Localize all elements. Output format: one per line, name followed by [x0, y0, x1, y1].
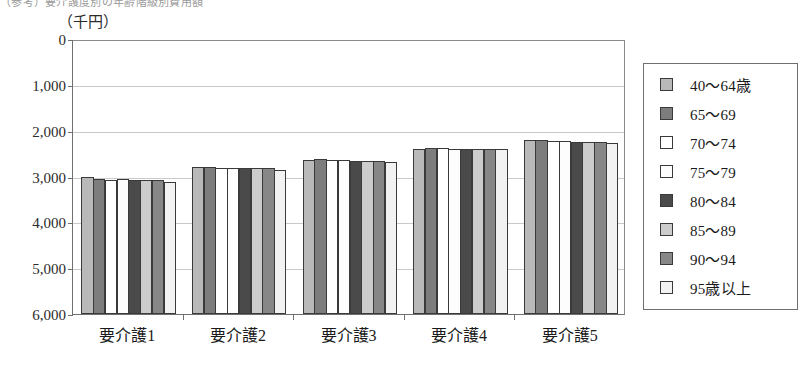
- bar: [338, 160, 350, 314]
- bar: [93, 179, 105, 314]
- bar: [484, 149, 496, 314]
- legend-item[interactable]: 70〜74: [644, 128, 797, 157]
- legend-item[interactable]: 40〜64歳: [644, 70, 797, 99]
- y-axis-tick-mark: [68, 178, 73, 179]
- legend-swatch-icon: [660, 194, 673, 207]
- y-axis-tick-mark: [68, 223, 73, 224]
- chart-legend: 40〜64歳65〜6970〜7475〜7980〜8485〜8990〜9495歳以…: [643, 63, 798, 310]
- legend-item-label: 80〜84: [690, 190, 736, 211]
- y-axis-tick-label: 6,000: [32, 307, 66, 324]
- y-axis-tick-mark: [68, 315, 73, 316]
- legend-item[interactable]: 65〜69: [644, 99, 797, 128]
- legend-item[interactable]: 75〜79: [644, 157, 797, 186]
- bar: [314, 159, 326, 314]
- plot-area: [72, 40, 625, 315]
- bar: [495, 149, 507, 314]
- legend-item[interactable]: 80〜84: [644, 186, 797, 215]
- legend-swatch-icon: [660, 223, 673, 236]
- legend-swatch-icon: [660, 281, 673, 294]
- bar-group: [81, 41, 175, 314]
- bar: [437, 148, 449, 314]
- legend-item-label: 70〜74: [690, 132, 736, 153]
- bar: [559, 141, 571, 314]
- legend-swatch-icon: [660, 165, 673, 178]
- bar: [582, 142, 594, 314]
- y-axis-tick-label: 0: [59, 32, 67, 49]
- legend-item-label: 65〜69: [690, 103, 736, 124]
- bar: [472, 149, 484, 314]
- x-axis-tick-label: 要介護3: [321, 322, 377, 346]
- bar: [117, 179, 129, 314]
- bar: [274, 170, 286, 314]
- x-axis-tick-mark: [514, 315, 515, 320]
- bar: [140, 180, 152, 314]
- bar: [262, 168, 274, 314]
- bar: [192, 167, 204, 314]
- bar: [413, 149, 425, 314]
- legend-swatch-icon: [660, 107, 673, 120]
- y-axis-tick-label: 5,000: [32, 261, 66, 278]
- x-axis-tick-label: 要介護1: [99, 322, 155, 346]
- legend-swatch-icon: [660, 136, 673, 149]
- bar: [215, 168, 227, 314]
- legend-swatch-icon: [660, 78, 673, 91]
- y-axis-tick-label: 4,000: [32, 215, 66, 232]
- bar: [227, 168, 239, 314]
- bar: [303, 160, 315, 314]
- bar: [105, 180, 117, 314]
- legend-item-label: 75〜79: [690, 161, 736, 182]
- x-axis-tick-mark: [293, 315, 294, 320]
- y-axis-tick-label: 3,000: [32, 169, 66, 186]
- legend-item-label: 85〜89: [690, 219, 736, 240]
- legend-item[interactable]: 90〜94: [644, 244, 797, 273]
- y-axis-tick-label: 1,000: [32, 77, 66, 94]
- bar: [164, 182, 176, 314]
- bar: [152, 180, 164, 314]
- y-axis-labels: 6,0005,0004,0003,0002,0001,0000: [0, 40, 66, 315]
- bar: [385, 162, 397, 314]
- bar: [239, 168, 251, 314]
- legend-swatch-icon: [660, 252, 673, 265]
- bar: [204, 167, 216, 314]
- y-axis-tick-label: 2,000: [32, 123, 66, 140]
- bar: [251, 168, 263, 314]
- x-axis-tick-label: 要介護5: [542, 322, 598, 346]
- bar-chart: 6,0005,0004,0003,0002,0001,0000 要介護1要介護2…: [0, 0, 640, 381]
- bar: [425, 148, 437, 314]
- x-axis-tick-mark: [183, 315, 184, 320]
- bar: [535, 140, 547, 314]
- y-axis-tick-mark: [68, 86, 73, 87]
- bar: [594, 142, 606, 314]
- bar: [448, 149, 460, 314]
- legend-item-label: 95歳以上: [690, 277, 751, 298]
- bar: [547, 141, 559, 314]
- bar: [350, 161, 362, 314]
- bar-group: [413, 41, 507, 314]
- bar: [571, 142, 583, 314]
- legend-item-label: 90〜94: [690, 248, 736, 269]
- x-axis-tick-mark: [404, 315, 405, 320]
- bar: [373, 161, 385, 314]
- bar: [524, 140, 536, 314]
- bar: [606, 143, 618, 314]
- bar: [128, 180, 140, 314]
- legend-item[interactable]: 85〜89: [644, 215, 797, 244]
- y-axis-tick-mark: [68, 269, 73, 270]
- x-axis-tick-label: 要介護4: [431, 322, 487, 346]
- bar: [460, 149, 472, 314]
- bar: [326, 160, 338, 314]
- bar-group: [192, 41, 286, 314]
- y-axis-tick-mark: [68, 132, 73, 133]
- bar-group: [524, 41, 618, 314]
- x-axis-tick-label: 要介護2: [210, 322, 266, 346]
- bar-group: [303, 41, 397, 314]
- bar: [361, 161, 373, 314]
- y-axis-tick-mark: [68, 40, 73, 41]
- bar: [81, 177, 93, 314]
- legend-item-label: 40〜64歳: [690, 74, 751, 95]
- legend-item[interactable]: 95歳以上: [644, 273, 797, 302]
